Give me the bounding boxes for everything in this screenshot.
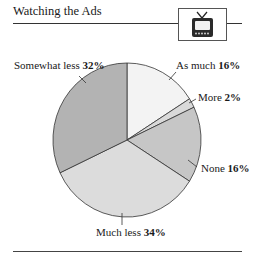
label-as-much: As much 16% <box>176 59 240 71</box>
bottom-rule <box>13 251 242 252</box>
label-somewhat-less: Somewhat less 32% <box>14 59 104 71</box>
label-much-less: Much less 34% <box>96 226 166 238</box>
pie-chart <box>0 0 255 256</box>
label-none: None 16% <box>201 162 250 174</box>
label-more: More 2% <box>198 91 241 103</box>
